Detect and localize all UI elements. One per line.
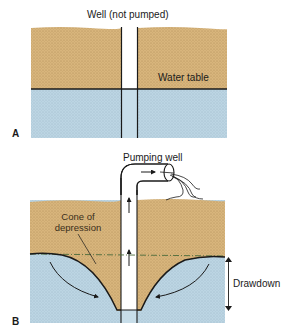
well-not-pumped-label: Well (not pumped) bbox=[87, 9, 169, 20]
cone-label-line2: depression bbox=[48, 222, 108, 233]
cone-of-depression-label: Cone of depression bbox=[48, 211, 108, 233]
water-table-label: Water table bbox=[158, 72, 209, 83]
panel-letter-b: B bbox=[12, 316, 19, 327]
cone-label-line1: Cone of bbox=[48, 211, 108, 222]
well-water-a bbox=[121, 89, 138, 138]
saturated-zone-a bbox=[31, 89, 121, 138]
pump-pipe-inner bbox=[137, 181, 168, 195]
saturated-zone-a-right bbox=[138, 89, 227, 138]
unsaturated-zone-a bbox=[31, 27, 121, 89]
drawdown-label: Drawdown bbox=[233, 278, 280, 289]
panel-letter-a: A bbox=[12, 128, 19, 139]
well-water-b bbox=[121, 310, 137, 323]
pumping-well-label: Pumping well bbox=[123, 152, 182, 163]
panel-b bbox=[30, 164, 232, 323]
